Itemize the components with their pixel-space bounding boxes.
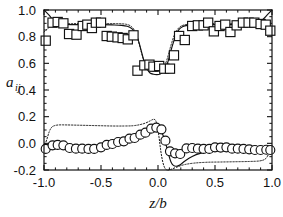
y-tick-label: 0.4 [18,83,36,98]
data-point-square [204,18,213,27]
chart-svg: -1.0-0.50.00.51.0 -0.20.00.20.40.60.81.0… [0,0,283,217]
y-tick-label: 0.2 [18,109,36,124]
x-tick-label: -1.0 [33,175,55,190]
data-point-square [169,51,178,60]
x-tick-label: 1.0 [263,175,281,190]
y-tick-label: 0.0 [18,136,36,151]
data-point-square [41,36,50,45]
x-tick-label: -0.5 [90,175,112,190]
data-point-square [266,26,275,35]
svg-text:a: a [6,74,14,90]
data-point-circle [157,125,166,134]
x-tick-label: 0.0 [149,175,167,190]
series-markers [41,17,275,158]
x-axis-tick-labels: -1.0-0.50.00.51.0 [33,175,281,190]
y-tick-label: -0.2 [14,163,36,178]
data-point-square [165,64,174,73]
y-tick-label: 0.8 [18,29,36,44]
data-point-square [72,30,81,39]
svg-text:z/b: z/b [148,195,167,211]
y-axis-label: a ij [6,74,21,93]
y-tick-label: 0.6 [18,56,36,71]
data-point-square [96,18,105,27]
y-tick-label: 1.0 [18,3,36,18]
data-point-circle [266,146,275,155]
data-point-square [129,31,138,40]
data-point-square [59,19,68,28]
x-axis-label: z/b [148,195,167,211]
figure-container: -1.0-0.50.00.51.0 -0.20.00.20.40.60.81.0… [0,0,283,217]
data-point-circle [161,136,170,145]
svg-text:ij: ij [15,82,21,93]
x-tick-label: 0.5 [206,175,224,190]
data-point-square [180,35,189,44]
